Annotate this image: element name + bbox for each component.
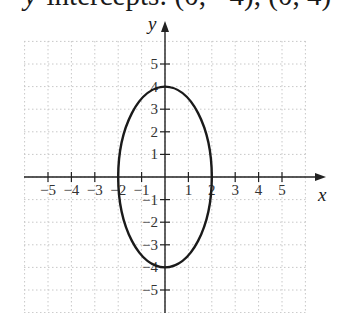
- y-tick-label: −2: [142, 214, 158, 230]
- x-tick-label: 5: [278, 182, 286, 198]
- axes: [24, 21, 326, 313]
- x-tick-label: −4: [63, 182, 79, 198]
- y-tick-label: −1: [142, 192, 158, 208]
- y-tick-label: 3: [151, 101, 159, 117]
- y-tick-label: 5: [151, 56, 159, 72]
- x-tick-label: 1: [185, 182, 193, 198]
- y-tick-label: 1: [151, 146, 159, 162]
- y-axis-label: y: [146, 13, 157, 34]
- ellipse-graph: xy−5−4−3−2−112345−5−4−3−2−112345: [0, 0, 342, 313]
- tick-labels: xy−5−4−3−2−112345−5−4−3−2−112345: [40, 13, 327, 298]
- x-axis-label: x: [317, 184, 327, 205]
- x-tick-label: 3: [231, 182, 239, 198]
- y-axis-arrow-icon: [161, 21, 169, 32]
- x-tick-label: −3: [87, 182, 103, 198]
- x-tick-label: −5: [40, 182, 56, 198]
- x-axis-arrow-icon: [315, 173, 326, 181]
- y-tick-label: −3: [142, 237, 158, 253]
- y-tick-label: −5: [142, 282, 158, 298]
- x-tick-label: 4: [255, 182, 263, 198]
- y-tick-label: 2: [151, 124, 159, 140]
